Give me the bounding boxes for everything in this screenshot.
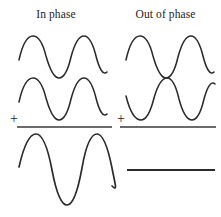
in-phase-wave-1 xyxy=(19,36,107,78)
in-phase-plus-operator: + xyxy=(10,112,18,126)
in-phase-sum-wave xyxy=(19,134,115,205)
waveform-canvas xyxy=(0,0,221,217)
out-of-phase-wave-1 xyxy=(126,36,214,78)
out-of-phase-plus-operator: + xyxy=(117,112,125,126)
in-phase-wave-2 xyxy=(19,78,107,120)
out-of-phase-wave-2 xyxy=(126,78,215,120)
wave-interference-figure: In phase Out of phase + + xyxy=(0,0,221,217)
